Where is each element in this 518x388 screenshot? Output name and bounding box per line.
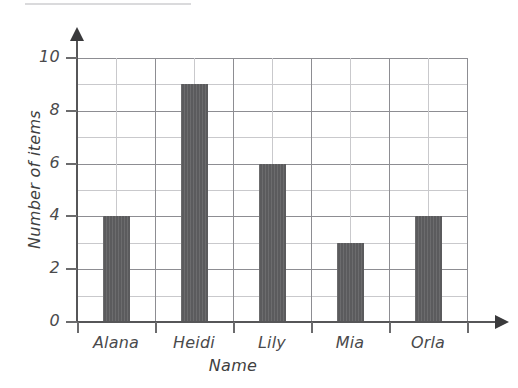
x-tick-mark bbox=[467, 322, 469, 333]
y-tick-mark bbox=[66, 57, 77, 59]
x-tick-label-lily: Lily bbox=[227, 333, 317, 352]
gridline-vertical bbox=[233, 58, 234, 322]
gridline-vertical bbox=[155, 58, 156, 322]
y-axis-title: Number of items bbox=[25, 70, 44, 290]
y-tick-mark bbox=[66, 215, 77, 217]
y-tick-label: 10 bbox=[32, 47, 60, 66]
x-tick-mark bbox=[155, 322, 157, 333]
x-axis-line bbox=[77, 321, 501, 323]
x-tick-label-orla: Orla bbox=[383, 333, 473, 352]
bar-heidi bbox=[181, 84, 208, 322]
x-tick-mark bbox=[77, 322, 79, 333]
bar-alana bbox=[103, 216, 130, 322]
x-tick-label-alana: Alana bbox=[71, 333, 161, 352]
x-axis-title: Name bbox=[163, 356, 303, 375]
gridline-vertical bbox=[389, 58, 390, 322]
x-axis-arrow-icon bbox=[495, 315, 509, 329]
x-tick-mark bbox=[311, 322, 313, 333]
y-tick-mark bbox=[66, 321, 77, 323]
y-tick-label: 0 bbox=[32, 311, 60, 330]
bar-lily bbox=[259, 164, 286, 322]
y-tick-mark bbox=[66, 110, 77, 112]
x-tick-label-heidi: Heidi bbox=[149, 333, 239, 352]
gridline-vertical bbox=[311, 58, 312, 322]
scan-edge-artifact bbox=[25, 3, 191, 5]
y-axis-arrow-icon bbox=[70, 27, 84, 41]
plot-area bbox=[77, 58, 467, 322]
gridline-vertical bbox=[467, 58, 468, 322]
bar-mia bbox=[337, 243, 364, 322]
x-tick-label-mia: Mia bbox=[305, 333, 395, 352]
y-axis-line bbox=[76, 36, 78, 323]
x-tick-mark bbox=[389, 322, 391, 333]
bar-chart-figure: 0246810 AlanaHeidiLilyMiaOrla Number of … bbox=[0, 0, 518, 388]
y-tick-mark bbox=[66, 163, 77, 165]
y-tick-mark bbox=[66, 268, 77, 270]
x-tick-mark bbox=[233, 322, 235, 333]
bar-orla bbox=[415, 216, 442, 322]
